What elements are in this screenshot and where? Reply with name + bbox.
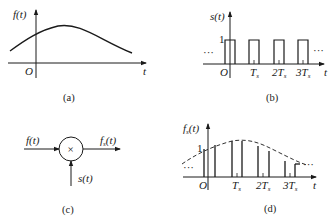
control-label: s(t) <box>78 172 93 185</box>
multiplier-symbol: × <box>68 143 74 155</box>
panel-a: f(t) O t (a) <box>8 8 147 104</box>
pulse-train <box>225 40 308 64</box>
origin-label: O <box>199 179 207 191</box>
origin-label: O <box>25 65 33 77</box>
tick-label-ts: Ts <box>250 66 259 80</box>
panel-c: × f(t) fs(t) s(t) (c) <box>24 134 120 216</box>
y-axis-label: s(t) <box>210 10 225 23</box>
tick-label-2ts: 2Ts <box>272 66 287 80</box>
x-axis-label: t <box>313 179 317 191</box>
input-label: f(t) <box>26 134 40 147</box>
sample-pulses <box>204 141 300 177</box>
caption-a: (a) <box>63 92 75 104</box>
tick-label-3ts: 3Ts <box>282 179 298 193</box>
x-axis-label: t <box>143 65 147 77</box>
tick-label-ts: Ts <box>232 179 241 193</box>
caption-b: (b) <box>266 92 279 104</box>
signal-curve <box>10 25 132 53</box>
y-axis-label: f(t) <box>13 8 27 21</box>
tick-label-3ts: 3Ts <box>295 66 311 80</box>
tick-label-2ts: 2Ts <box>256 179 271 193</box>
x-axis-label: t <box>324 66 328 78</box>
ellipsis-left: ··· <box>203 46 214 58</box>
ellipsis-right: ··· <box>313 44 324 56</box>
output-label: fs(t) <box>100 134 117 148</box>
caption-c: (c) <box>62 204 74 216</box>
ellipsis-left: ··· <box>183 161 194 173</box>
panel-d: fs(t) 1 ··· ··· O Ts 2Ts 3Ts t (d) <box>182 122 317 215</box>
y-axis-label: fs(t) <box>183 122 200 136</box>
amplitude-label: 1 <box>197 142 203 154</box>
ellipsis-right: ··· <box>303 158 314 170</box>
panel-b: s(t) 1 ··· ··· O Ts 2Ts 3Ts t (b) <box>203 10 328 104</box>
caption-d: (d) <box>264 203 277 215</box>
signal-sampling-diagram: f(t) O t (a) s(t) 1 ··· ··· O Ts 2Ts 3Ts… <box>0 0 334 223</box>
amplitude-label: 1 <box>219 33 225 45</box>
origin-label: O <box>220 66 228 78</box>
